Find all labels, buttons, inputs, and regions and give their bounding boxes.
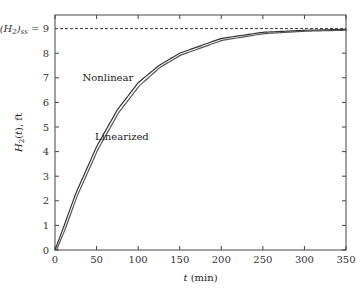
x-tick-label: 150 <box>170 254 189 265</box>
y-tick-label: 2 <box>43 195 49 206</box>
x-tick-label: 0 <box>52 254 58 265</box>
y-tick-label: 0 <box>43 245 49 256</box>
x-tick-label: 300 <box>295 254 314 265</box>
y-tick-label: 1 <box>43 220 49 231</box>
x-tick-label: 100 <box>129 254 148 265</box>
x-tick-label: 200 <box>212 254 231 265</box>
x-tick-label: 50 <box>90 254 103 265</box>
y-tick-label: 8 <box>43 48 49 59</box>
y-tick-label: 4 <box>43 146 49 157</box>
x-axis-label: t (min) <box>183 272 217 283</box>
x-tick-label: 250 <box>253 254 272 265</box>
x-tick-label: 350 <box>336 254 355 265</box>
y-tick-label: 5 <box>43 122 49 133</box>
steady-state-label: (H2)ss = 9 <box>0 23 49 36</box>
y-tick-label: 6 <box>43 97 49 108</box>
y-tick-label: 3 <box>43 171 49 182</box>
chart: 050100150200250300350012345678(H2)ss = 9… <box>0 0 363 288</box>
annotation-nonlinear: Nonlinear <box>83 72 134 83</box>
annotation-linearized: Linearized <box>95 131 149 142</box>
y-axis-label: H2(t), ft <box>13 113 26 153</box>
y-tick-label: 7 <box>43 72 49 83</box>
